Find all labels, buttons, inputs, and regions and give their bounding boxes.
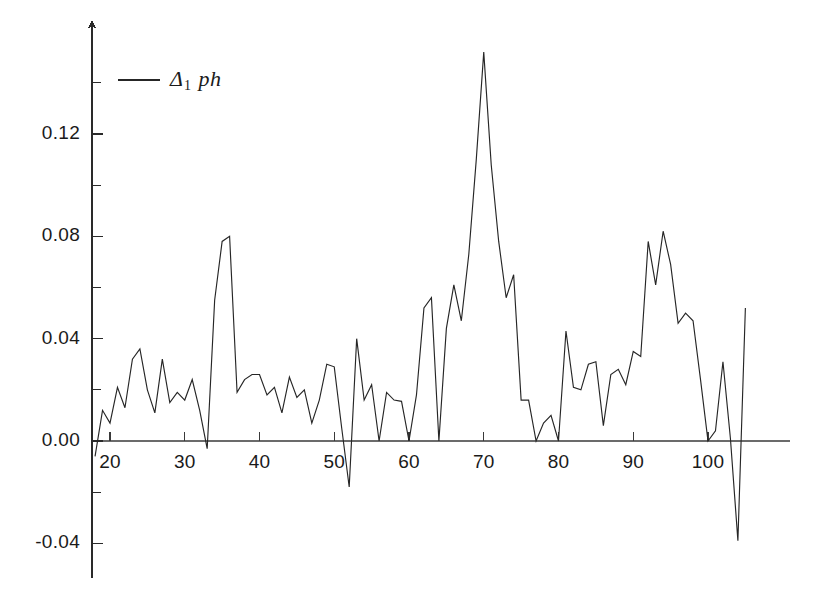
x-tick-label: 30: [145, 451, 225, 473]
chart-legend: Δ1 ph: [118, 66, 221, 94]
x-tick-label: 100: [668, 451, 748, 473]
x-tick-label: 50: [294, 451, 374, 473]
x-tick-label: 60: [369, 451, 449, 473]
legend-delta-symbol: Δ: [170, 66, 183, 91]
x-tick-label: 20: [70, 451, 150, 473]
legend-line-swatch: [118, 79, 160, 81]
axes-group: [89, 22, 790, 578]
y-tick-label: -0.04: [0, 531, 80, 553]
y-tick-label: 0.08: [0, 224, 80, 246]
y-tick-label: 0.04: [0, 327, 80, 349]
x-tick-label: 90: [593, 451, 673, 473]
y-tick-label: 0.12: [0, 122, 80, 144]
chart-container: -0.040.000.040.080.12 203040506070809010…: [0, 0, 830, 595]
x-tick-label: 70: [444, 451, 524, 473]
y-tick-label: 0.00: [0, 429, 80, 451]
x-tick-label: 40: [220, 451, 300, 473]
legend-tail-text: ph: [192, 66, 221, 91]
legend-label: Δ1 ph: [170, 66, 221, 94]
x-tick-label: 80: [519, 451, 599, 473]
